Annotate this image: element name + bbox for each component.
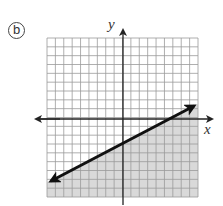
y-axis-label: y xyxy=(106,16,115,32)
x-axis-label: x xyxy=(203,121,211,137)
coordinate-plane: x y xyxy=(0,0,223,206)
